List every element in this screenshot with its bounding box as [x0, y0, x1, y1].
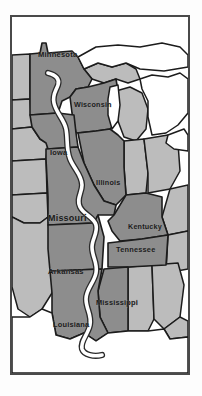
map-canvas: Minnesota Wisconsin Iowa Illinois Missou…: [12, 17, 188, 373]
state-label-iowa: Iowa: [50, 148, 68, 157]
state-label-kentucky: Kentucky: [128, 222, 162, 231]
state-oklahoma: [12, 193, 48, 223]
state-label-wisconsin: Wisconsin: [74, 100, 112, 109]
state-south-dakota: [12, 99, 32, 129]
map-figure: Minnesota Wisconsin Iowa Illinois Missou…: [0, 0, 202, 396]
state-label-arkansas: Arkansas: [48, 267, 84, 276]
state-label-minnesota: Minnesota: [38, 50, 78, 59]
state-label-illinois: Illinois: [96, 178, 120, 187]
state-label-louisiana: Louisiana: [53, 320, 90, 329]
state-label-tennessee: Tennessee: [116, 245, 155, 254]
state-label-missouri: Missouri: [48, 213, 87, 223]
state-north-dakota: [12, 54, 30, 100]
state-kansas: [12, 159, 47, 195]
state-label-mississippi: Mississippi: [96, 298, 138, 307]
map-frame-border: Minnesota Wisconsin Iowa Illinois Missou…: [10, 15, 190, 375]
